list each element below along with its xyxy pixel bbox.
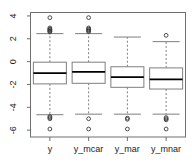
- outlier-point: [87, 117, 91, 121]
- y-axis-tick-label: -6: [8, 126, 18, 134]
- x-axis: yy_mcary_mary_mnar: [48, 137, 182, 154]
- outlier-point: [48, 127, 52, 131]
- boxplot-figure: 420-2-4-6 yy_mcary_mary_mnar: [0, 0, 192, 165]
- x-axis-tick-label: y_mnar: [151, 144, 181, 154]
- y-axis: 420-2-4-6: [8, 13, 31, 138]
- y-axis-tick-labels: 420-2-4-6: [8, 13, 18, 134]
- y-axis-tick-label: -4: [8, 103, 18, 111]
- y-axis-ticks: [27, 16, 31, 130]
- boxplot-group: [111, 37, 144, 131]
- boxplot-group: [33, 16, 66, 131]
- boxplot-group: [72, 16, 105, 131]
- y-axis-tick-label: -2: [8, 80, 18, 88]
- x-axis-tick-label: y_mar: [115, 144, 140, 154]
- outlier-point: [87, 127, 91, 131]
- outlier-point: [164, 127, 168, 131]
- x-axis-ticks: [50, 137, 166, 141]
- boxplot-group: [150, 33, 183, 130]
- outlier-point: [48, 16, 52, 20]
- boxplot-canvas: 420-2-4-6 yy_mcary_mary_mnar: [0, 0, 192, 165]
- x-axis-tick-label: y: [48, 144, 53, 154]
- y-axis-tick-label: 4: [8, 13, 18, 18]
- box-series-layer: [33, 16, 182, 131]
- outlier-point: [164, 33, 168, 37]
- x-axis-tick-labels: yy_mcary_mary_mnar: [48, 144, 182, 154]
- x-axis-tick-label: y_mcar: [74, 144, 104, 154]
- outlier-point: [125, 127, 129, 131]
- y-axis-tick-label: 0: [8, 59, 18, 64]
- outlier-point: [87, 16, 91, 20]
- y-axis-tick-label: 2: [8, 36, 18, 41]
